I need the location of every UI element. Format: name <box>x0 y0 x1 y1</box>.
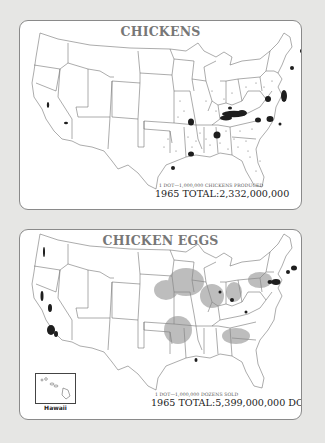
scatter-dots <box>164 81 273 172</box>
dot-clusters <box>47 49 302 171</box>
map-title: CHICKENS <box>20 24 301 39</box>
diffuse-dot-areas <box>154 268 272 344</box>
us-dot-map-chickens <box>20 21 302 210</box>
dot-clusters <box>41 247 298 362</box>
total-value: 1965 TOTAL:5,399,000,000 DOZ. <box>151 397 302 408</box>
hawaii-label: Hawaii <box>35 404 76 411</box>
state-boundaries <box>32 234 292 390</box>
map-legend: 1 DOT—1,000,000 DOZENS SOLD 1965 TOTAL:5… <box>151 392 302 408</box>
hawaii-inset <box>35 373 76 404</box>
total-value: 1965 TOTAL:2,332,000,000 <box>155 188 289 199</box>
chicken-eggs-map-panel: CHICKEN EGGS <box>19 229 302 420</box>
map-title: CHICKEN EGGS <box>20 233 301 248</box>
map-legend: 1 DOT—1,000,000 CHICKENS PRODUCED 1965 T… <box>155 183 289 199</box>
chickens-map-panel: CHICKENS <box>19 20 302 210</box>
state-boundaries <box>32 33 292 189</box>
hawaii-islands <box>36 374 75 403</box>
